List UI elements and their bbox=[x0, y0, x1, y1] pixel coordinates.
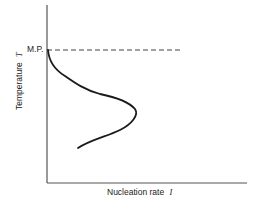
nucleation-curve bbox=[48, 50, 136, 148]
svg-text:Nucleation rate I: Nucleation rate I bbox=[107, 187, 174, 197]
x-axis-symbol: I bbox=[169, 187, 174, 197]
y-axis-label: Temperature bbox=[14, 62, 24, 110]
nucleation-diagram: M.P. Temperature T Nucleation rate I bbox=[0, 0, 259, 203]
melting-point-label: M.P. bbox=[27, 44, 43, 54]
x-axis-label: Nucleation rate bbox=[107, 187, 164, 197]
y-axis-symbol: T bbox=[14, 51, 24, 57]
svg-text:Temperature T: Temperature T bbox=[14, 51, 24, 110]
